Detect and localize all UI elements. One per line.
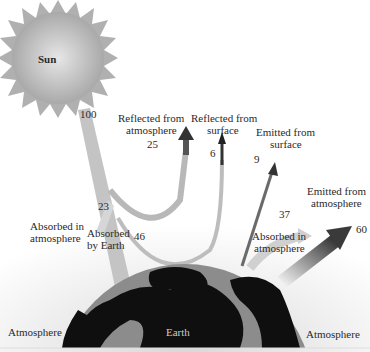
atmosphere-right-label: Atmosphere [306, 328, 360, 340]
arrow-up-icon [178, 126, 194, 140]
incoming-value: 100 [80, 108, 97, 120]
atmosphere-left-label: Atmosphere [8, 326, 62, 338]
emitted-surface-value: 9 [254, 153, 260, 165]
absorbed-atmosphere-left-label-1: Absorbed in [30, 220, 84, 232]
absorbed-earth-label-1: Absorbed [87, 227, 130, 239]
emitted-atmosphere-value: 60 [356, 223, 367, 235]
reflected-surface-label-1: Reflected from [191, 112, 257, 124]
absorbed-atmosphere-right-value: 37 [279, 208, 290, 220]
sun-label: Sun [38, 53, 56, 65]
reflected-atmosphere-label-1: Reflected from [118, 112, 184, 124]
absorbed-atmosphere-left-value: 23 [98, 200, 109, 212]
arrow-up-icon [268, 162, 278, 176]
emitted-surface-label-2: surface [270, 138, 302, 150]
absorbed-atmosphere-left-label-2: atmosphere [30, 232, 81, 244]
reflected-surface-value: 6 [210, 147, 216, 159]
emitted-surface-label-1: Emitted from [256, 126, 315, 138]
reflected-surface-label-2: surface [207, 124, 239, 136]
energy-diagram: Sun 100 Reflected from atmosphere 25 Ref… [0, 0, 370, 352]
sun-icon [0, 0, 118, 118]
emitted-atmosphere-label-2: atmosphere [311, 197, 362, 209]
absorbed-earth-value: 46 [134, 230, 145, 242]
absorbed-atmosphere-right-label-2: atmosphere [254, 242, 305, 254]
reflected-atmosphere-label-2: atmosphere [126, 124, 177, 136]
absorbed-atmosphere-right-label-1: Absorbed in [252, 230, 306, 242]
reflected-atmosphere-value: 25 [147, 138, 158, 150]
absorbed-earth-label-2: by Earth [87, 239, 125, 251]
earth-label: Earth [166, 326, 190, 338]
emitted-atmosphere-label-1: Emitted from [307, 185, 366, 197]
